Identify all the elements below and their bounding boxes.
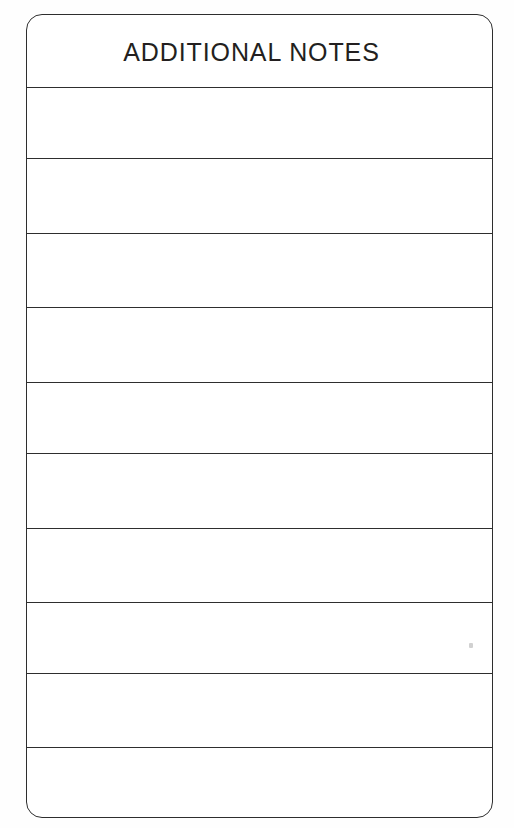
notes-row[interactable] xyxy=(27,454,492,529)
notes-row[interactable] xyxy=(27,88,492,159)
notes-row-text[interactable] xyxy=(27,454,492,459)
scan-speck xyxy=(469,643,473,648)
notes-row[interactable] xyxy=(27,308,492,383)
notes-row[interactable] xyxy=(27,748,492,818)
notes-row-text[interactable] xyxy=(27,529,492,534)
additional-notes-card: ADDITIONAL NOTES xyxy=(26,14,493,818)
notes-row[interactable] xyxy=(27,159,492,234)
notes-row-text[interactable] xyxy=(27,748,492,753)
notes-row[interactable] xyxy=(27,674,492,748)
notes-row-text[interactable] xyxy=(27,603,492,608)
notes-header: ADDITIONAL NOTES xyxy=(27,15,492,88)
notes-rows-container xyxy=(27,88,492,818)
notes-row-text[interactable] xyxy=(27,159,492,164)
notes-row-text[interactable] xyxy=(27,383,492,388)
notes-row-text[interactable] xyxy=(27,234,492,239)
notes-row[interactable] xyxy=(27,383,492,454)
notes-row-text[interactable] xyxy=(27,674,492,679)
notes-row[interactable] xyxy=(27,234,492,308)
scanned-page: ADDITIONAL NOTES xyxy=(0,0,514,828)
page-title: ADDITIONAL NOTES xyxy=(123,38,380,67)
notes-row-text[interactable] xyxy=(27,308,492,313)
notes-row-text[interactable] xyxy=(27,88,492,93)
notes-row[interactable] xyxy=(27,603,492,674)
notes-row[interactable] xyxy=(27,529,492,603)
